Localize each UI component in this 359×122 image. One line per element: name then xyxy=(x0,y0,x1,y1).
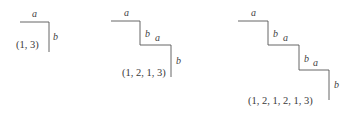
edge-label-b: b xyxy=(334,80,339,90)
edge-label-b: b xyxy=(273,29,278,39)
composition-tuple-label: (1, 2, 1, 2, 1, 3) xyxy=(248,96,313,107)
figure-board: ab(1, 3)abab(1, 2, 1, 3)ababab(1, 2, 1, … xyxy=(0,0,359,122)
edge-label-b: b xyxy=(304,54,309,64)
staircase-figure: ababab(1, 2, 1, 2, 1, 3) xyxy=(0,0,359,122)
edge-label-a: a xyxy=(283,33,288,43)
edge-label-a: a xyxy=(313,58,318,68)
edge-label-a: a xyxy=(251,8,256,18)
